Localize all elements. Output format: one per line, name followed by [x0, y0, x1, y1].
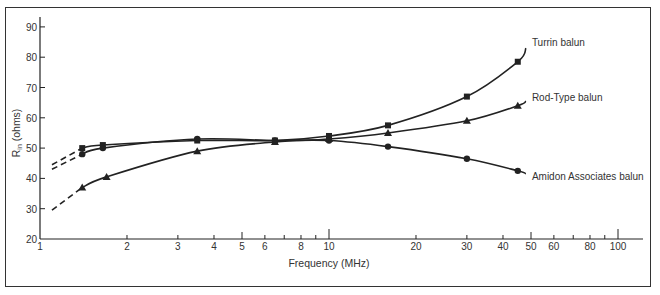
y-tick-label: 80	[26, 52, 38, 63]
x-tick-label: 10	[323, 241, 335, 252]
x-tick-label: 1	[37, 241, 43, 252]
circle-marker	[100, 145, 106, 151]
series-label: Turrin balun	[532, 37, 585, 48]
x-tick-label: 3	[175, 241, 181, 252]
x-tick-label: 4	[211, 241, 217, 252]
y-tick-label: 30	[26, 204, 38, 215]
series-label: Rod-Type balun	[532, 92, 603, 103]
x-tick-label: 100	[610, 241, 627, 252]
square-marker	[79, 145, 85, 151]
y-tick-label: 90	[26, 22, 38, 33]
square-marker	[385, 122, 391, 128]
circle-marker	[464, 156, 470, 162]
y-tick-label: 20	[26, 234, 38, 245]
x-tick-label: 20	[410, 241, 422, 252]
y-axis-label: Rin (ohms)	[10, 109, 23, 158]
series-line	[82, 101, 526, 187]
series-rod-type-balun: Rod-Type balun	[52, 92, 603, 210]
circle-marker	[515, 168, 521, 174]
circle-marker	[194, 136, 200, 142]
series-line	[82, 139, 526, 174]
x-tick-label: 50	[525, 241, 537, 252]
square-marker	[515, 59, 521, 65]
x-tick-label: 2	[124, 241, 130, 252]
y-tick-label: 40	[26, 173, 38, 184]
square-marker	[464, 94, 470, 100]
circle-marker	[79, 151, 85, 157]
triangle-marker	[78, 183, 86, 190]
circle-marker	[385, 143, 391, 149]
x-tick-label: 8	[298, 241, 304, 252]
x-tick-label: 60	[548, 241, 560, 252]
x-tick-label: 6	[262, 241, 268, 252]
series-label: Amidon Associates balun	[532, 171, 644, 182]
x-tick-label: 40	[497, 241, 509, 252]
chart-plot: 2030405060708090123456810203040506080100…	[0, 0, 660, 295]
x-axis-label: Frequency (MHz)	[288, 257, 369, 269]
x-tick-label: 5	[239, 241, 245, 252]
x-tick-label: 30	[461, 241, 473, 252]
y-tick-label: 50	[26, 143, 38, 154]
series-dashed-extension	[52, 187, 82, 210]
y-tick-label: 60	[26, 113, 38, 124]
series-line	[82, 48, 526, 148]
circle-marker	[272, 137, 278, 143]
circle-marker	[326, 137, 332, 143]
series-turrin-balun: Turrin balun	[52, 37, 585, 165]
series-dashed-extension	[52, 148, 82, 165]
x-tick-label: 80	[584, 241, 596, 252]
y-tick-label: 70	[26, 83, 38, 94]
